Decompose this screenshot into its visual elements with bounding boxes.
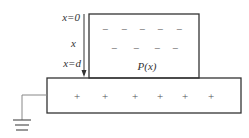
- plus-sign: +: [102, 90, 108, 102]
- plus-sign: +: [74, 90, 80, 102]
- label-polarization: P(x): [137, 60, 157, 73]
- ground-wire: [22, 95, 47, 120]
- minus-sign: −: [102, 23, 108, 35]
- arrow-down-icon: [82, 70, 87, 77]
- plus-sign: +: [182, 90, 188, 102]
- minus-sign: −: [121, 23, 127, 35]
- minus-sign: −: [111, 42, 117, 54]
- label-x-equals-d: x=d: [62, 57, 81, 69]
- minus-sign: −: [172, 42, 178, 54]
- minus-sign: −: [176, 23, 182, 35]
- plus-sign: +: [208, 90, 214, 102]
- ground-icon: [13, 120, 31, 130]
- minus-sign: −: [157, 23, 163, 35]
- label-x-equals-0: x=0: [61, 11, 80, 23]
- plus-sign: +: [157, 90, 163, 102]
- minus-sign: −: [154, 42, 160, 54]
- diagram-canvas: x=0 x x=d P(x) − − − − − − − − − + + + +…: [0, 0, 249, 138]
- negative-charges-row-1: − − − − −: [102, 23, 182, 35]
- plus-sign: +: [132, 90, 138, 102]
- positive-charges-row: + + + + + +: [74, 90, 214, 102]
- negative-charges-row-2: − − − −: [111, 42, 178, 54]
- label-x: x: [70, 37, 76, 49]
- minus-sign: −: [139, 23, 145, 35]
- minus-sign: −: [133, 42, 139, 54]
